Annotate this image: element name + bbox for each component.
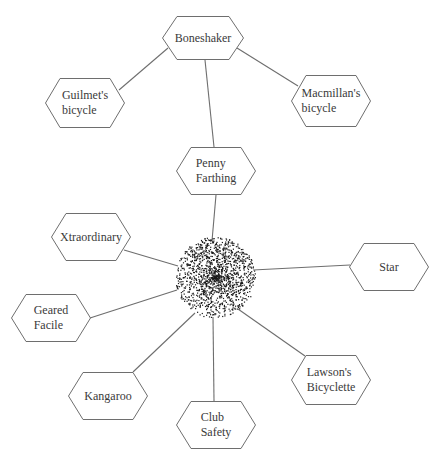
node-label: Boneshaker [175,31,232,46]
node-label: Club Safety [201,410,232,440]
node-boneshaker: Boneshaker [162,16,244,60]
node-label: Geared Facile [34,303,69,333]
node-label: Star [379,260,398,275]
edge-geared-facile-hub [90,290,177,318]
edge-xtraordinary-hub [124,250,178,266]
edge-penny-farthing-hub [212,195,216,241]
node-label: Macmillan's bicycle [302,86,361,116]
node-label: Kangaroo [84,389,131,404]
node-label: Xtraordinary [60,230,122,245]
node-lawson: Lawson's Bicyclette [291,355,371,405]
node-star: Star [349,243,429,291]
node-guilmet: Guilmet's bicycle [45,78,125,128]
node-xtraordinary: Xtraordinary [51,213,131,261]
diagram-canvas: BoneshakerGuilmet's bicycleMacmillan's b… [0,0,440,461]
edge-kangaroo-hub [133,313,195,372]
edge-star-hub [253,265,350,270]
edge-boneshaker-macmillan [237,48,298,86]
edge-lawson-hub [238,309,305,356]
node-label: Guilmet's bicycle [62,88,108,118]
node-label: Penny Farthing [196,156,237,186]
edge-boneshaker-guilmet [119,48,168,90]
node-label: Lawson's Bicyclette [307,365,356,395]
node-macmillan: Macmillan's bicycle [291,75,371,127]
edge-boneshaker-penny-farthing [205,60,214,147]
hub-dots [176,237,256,318]
node-club-safety: Club Safety [176,401,256,449]
node-penny-farthing: Penny Farthing [176,147,256,195]
node-geared-facile: Geared Facile [11,294,91,342]
node-kangaroo: Kangaroo [68,372,148,420]
edge-club-safety-hub [213,317,214,401]
